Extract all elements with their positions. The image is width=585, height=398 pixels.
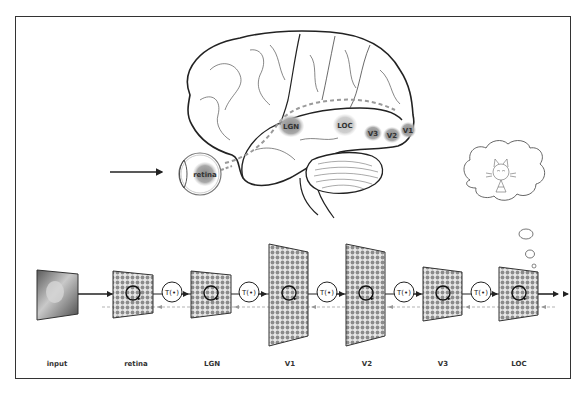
layer-v1	[269, 244, 308, 346]
region-v2: V2	[383, 127, 401, 143]
stage-label-loc: LOC	[511, 360, 526, 368]
stage-label-lgn: LGN	[204, 360, 220, 368]
stage-label-input: input	[47, 360, 68, 368]
region-v3: V3	[364, 125, 382, 141]
region-v1: V1	[400, 122, 416, 138]
transform-node: T(•)	[162, 282, 182, 302]
svg-text:LOC: LOC	[337, 122, 352, 130]
layer-lgn	[191, 271, 231, 318]
thought-bubble	[464, 141, 545, 268]
layer-v2	[346, 244, 385, 346]
stage-label-v2: V2	[362, 360, 372, 368]
svg-text:T(•): T(•)	[396, 289, 411, 297]
svg-text:T(•): T(•)	[473, 289, 488, 297]
layer-loc	[499, 267, 538, 321]
transform-node: T(•)	[239, 282, 259, 302]
stage-label-retina: retina	[124, 360, 148, 368]
svg-text:T(•): T(•)	[241, 289, 256, 297]
svg-text:retina: retina	[193, 171, 217, 179]
stage-label-v3: V3	[438, 360, 448, 368]
figure-canvas: LGN LOC V3 V2 V1 retina	[0, 0, 585, 398]
brain-illustration: LGN LOC V3 V2 V1	[187, 31, 416, 218]
eye-icon: retina	[179, 153, 232, 195]
svg-text:T(•): T(•)	[164, 289, 179, 297]
transform-node: T(•)	[317, 282, 337, 302]
region-loc: LOC	[333, 114, 357, 136]
svg-text:T(•): T(•)	[319, 289, 334, 297]
stage-label-v1: V1	[285, 360, 295, 368]
transform-node: T(•)	[394, 282, 414, 302]
region-lgn: LGN	[278, 115, 304, 137]
pipeline: T(•) T(•) T(•)	[37, 244, 568, 346]
input-image	[37, 270, 78, 320]
svg-text:V2: V2	[387, 132, 397, 140]
svg-text:V1: V1	[403, 127, 413, 135]
layer-retina	[113, 271, 153, 318]
layer-v3	[423, 267, 462, 321]
svg-text:V3: V3	[368, 130, 378, 138]
svg-text:LGN: LGN	[283, 123, 299, 131]
transform-node: T(•)	[471, 282, 491, 302]
